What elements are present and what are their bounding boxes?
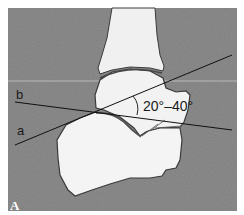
line-a-label: a [17, 124, 24, 137]
panel-label: A [10, 199, 19, 212]
ankle-radiograph-diagram: b a 20°–40° A [0, 0, 244, 215]
angle-range-label: 20°–40° [143, 99, 193, 113]
line-b-label: b [16, 88, 23, 101]
diagram-canvas [0, 0, 244, 215]
